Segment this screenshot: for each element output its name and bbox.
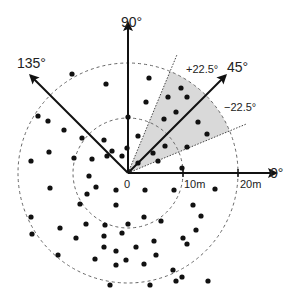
label-20m: 20m: [240, 178, 261, 190]
sample-point: [179, 165, 184, 170]
sample-point: [142, 187, 147, 192]
sample-point: [133, 244, 138, 249]
sample-point: [141, 261, 146, 266]
sample-point: [161, 116, 166, 121]
sample-point: [212, 186, 217, 191]
sample-point: [153, 252, 158, 257]
sample-point: [113, 248, 118, 253]
sample-point: [180, 235, 185, 240]
sample-point: [184, 144, 189, 149]
sample-point: [73, 235, 78, 240]
sample-point: [119, 153, 124, 158]
axis-135-arrow: [30, 75, 128, 173]
sample-point: [184, 94, 189, 99]
sample-point: [28, 214, 33, 219]
sample-point: [61, 127, 66, 132]
sample-point: [123, 257, 128, 262]
sample-point: [119, 230, 124, 235]
label-origin: 0: [124, 178, 130, 190]
sample-point: [35, 113, 40, 118]
sample-point: [198, 213, 203, 218]
label-90-degrees: 90°: [121, 14, 142, 30]
sample-point: [113, 262, 118, 267]
sample-point: [170, 267, 175, 272]
label-0-degrees: 0°: [270, 165, 283, 181]
sample-point: [179, 274, 184, 279]
sample-point: [190, 202, 195, 207]
sample-point: [47, 185, 52, 190]
sample-point: [173, 278, 178, 283]
sample-point: [204, 131, 209, 136]
sample-point: [28, 158, 33, 163]
sample-point: [101, 244, 106, 249]
label-135-degrees: 135°: [17, 55, 46, 71]
sample-point: [102, 222, 107, 227]
sample-point: [46, 149, 51, 154]
sample-point: [113, 202, 118, 207]
sample-point: [184, 241, 189, 246]
sample-point: [178, 85, 183, 90]
sample-point: [151, 238, 156, 243]
label-10m: 10m: [184, 178, 205, 190]
sample-point: [92, 256, 97, 261]
sample-point: [77, 201, 82, 206]
sample-point: [165, 94, 170, 99]
sample-point: [193, 227, 198, 232]
sample-point: [135, 133, 140, 138]
sample-point: [205, 278, 210, 283]
sample-point: [103, 81, 108, 86]
sample-point: [155, 158, 160, 163]
sample-point: [171, 187, 176, 192]
label-minus-22-5: −22.5°: [224, 101, 256, 113]
sample-point: [29, 231, 34, 236]
sample-point: [109, 148, 114, 153]
sample-point: [162, 143, 167, 148]
sample-point: [101, 233, 106, 238]
sample-point: [195, 119, 200, 124]
sample-point: [113, 187, 118, 192]
sample-point: [158, 218, 163, 223]
sample-point: [107, 282, 112, 287]
sample-point: [86, 173, 91, 178]
sample-point: [93, 184, 98, 189]
sample-point: [83, 221, 88, 226]
sample-point: [71, 155, 76, 160]
sample-point: [143, 99, 148, 104]
sample-point: [147, 282, 152, 287]
label-plus-22-5: +22.5°: [186, 63, 218, 75]
sample-point: [173, 109, 178, 114]
label-45-degrees: 45°: [227, 59, 248, 75]
sample-point: [146, 75, 151, 80]
sample-point: [45, 118, 50, 123]
sample-point: [84, 191, 89, 196]
sample-point: [69, 71, 74, 76]
polar-sector-diagram: 90° 135° 45° 0° +22.5° −22.5° 0 10m 20m: [0, 0, 295, 299]
sample-point: [101, 137, 106, 142]
sample-point: [79, 135, 84, 140]
sample-point: [141, 214, 146, 219]
sample-point: [125, 221, 130, 226]
sample-point: [57, 225, 62, 230]
sample-point: [89, 156, 94, 161]
sample-point: [55, 252, 60, 257]
